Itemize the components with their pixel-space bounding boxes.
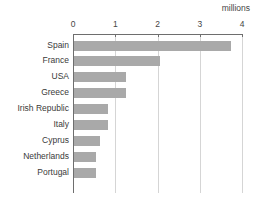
category-label: USA — [0, 71, 69, 82]
x-tick-label: 2 — [155, 19, 160, 29]
bar — [73, 41, 231, 51]
gridline-0 — [73, 34, 74, 193]
category-label: Greece — [0, 87, 69, 98]
bar-row — [73, 102, 242, 117]
bar-row — [73, 54, 242, 69]
bar — [73, 152, 96, 162]
plot-area: 01234 — [73, 34, 242, 193]
category-label: Italy — [0, 119, 69, 130]
x-tick-label: 0 — [71, 19, 76, 29]
tickmark-4 — [242, 34, 243, 37]
bar-row — [73, 165, 242, 180]
bar-row — [73, 149, 242, 164]
category-axis-labels: SpainFranceUSAGreeceIrish RepublicItalyC… — [0, 34, 69, 193]
x-tick-label: 3 — [197, 19, 202, 29]
bar-row — [73, 38, 242, 53]
bar-row — [73, 118, 242, 133]
category-label: Portugal — [0, 167, 69, 178]
bar — [73, 88, 126, 98]
bar-row — [73, 70, 242, 85]
x-tick-label: 4 — [240, 19, 245, 29]
axis-unit-label: millions — [222, 3, 250, 13]
bar — [73, 72, 126, 82]
bar-series — [73, 34, 242, 193]
category-label: Cyprus — [0, 135, 69, 146]
bar-row — [73, 86, 242, 101]
bar — [73, 56, 160, 66]
category-label: Irish Republic — [0, 103, 69, 114]
bar-row — [73, 133, 242, 148]
bar — [73, 104, 108, 114]
gridline-4 — [242, 34, 243, 193]
category-label: France — [0, 55, 69, 66]
bar — [73, 120, 108, 130]
category-label: Spain — [0, 40, 69, 51]
bar — [73, 136, 100, 146]
bar — [73, 168, 96, 178]
bar-chart: millions SpainFranceUSAGreeceIrish Repub… — [0, 0, 259, 200]
x-tick-label: 1 — [113, 19, 118, 29]
category-label: Netherlands — [0, 151, 69, 162]
